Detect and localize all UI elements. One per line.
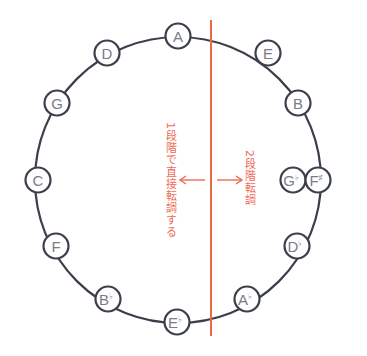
- key-node-ab: A♭: [235, 287, 260, 312]
- key-node-bb: B♭: [96, 287, 121, 312]
- key-label: F: [51, 238, 60, 255]
- left-arrow: [180, 176, 205, 184]
- flat-sign: ♭: [109, 291, 113, 300]
- key-node-gb: G♭: [281, 168, 306, 193]
- modulation-diagram: AEBG♭F♯D♭A♭E♭B♭FCGD 1段階で直接転調する 2段階転調: [0, 0, 367, 356]
- one-step-modulation-label: 1段階で直接転調する: [165, 122, 176, 238]
- key-node-db: D♭: [285, 234, 310, 259]
- right-arrow: [217, 176, 242, 184]
- key-node-fs: F♯: [306, 168, 331, 193]
- key-node-d: D: [95, 41, 120, 66]
- key-node-e: E: [256, 41, 281, 66]
- key-node-c: C: [26, 168, 51, 193]
- key-ring: [35, 37, 321, 323]
- diagram-canvas: AEBG♭F♯D♭A♭E♭B♭FCGD: [0, 0, 367, 356]
- key-label: G: [51, 95, 63, 112]
- key-label: A: [173, 28, 183, 45]
- flat-sign: ♭: [295, 172, 299, 181]
- two-step-modulation-label: 2段階転調: [244, 150, 255, 206]
- key-node-b: B: [286, 91, 311, 116]
- key-node-eb: E♭: [165, 310, 190, 335]
- flat-sign: ♭: [248, 291, 252, 300]
- key-label: D: [102, 45, 113, 62]
- key-label: E: [263, 45, 273, 62]
- key-node-g: G: [45, 91, 70, 116]
- key-label: C: [33, 172, 44, 189]
- flat-sign: ♭: [178, 314, 182, 323]
- sharp-sign: ♯: [319, 172, 323, 181]
- key-node-f: F: [44, 234, 69, 259]
- key-node-a: A: [166, 24, 191, 49]
- key-label: B: [293, 95, 303, 112]
- flat-sign: ♭: [298, 238, 302, 247]
